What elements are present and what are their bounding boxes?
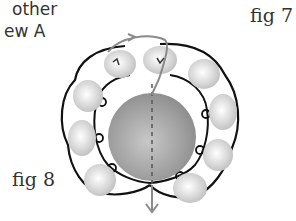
small-bead-7	[84, 164, 116, 196]
small-bead-9	[73, 80, 103, 112]
small-bead-8	[68, 120, 96, 156]
small-bead-3	[188, 59, 220, 89]
small-bead-1	[104, 50, 136, 78]
beading-diagram	[0, 0, 296, 221]
small-bead-5	[203, 139, 233, 171]
small-bead-2	[143, 46, 177, 74]
small-bead-4	[209, 94, 237, 130]
small-bead-6	[173, 173, 207, 203]
